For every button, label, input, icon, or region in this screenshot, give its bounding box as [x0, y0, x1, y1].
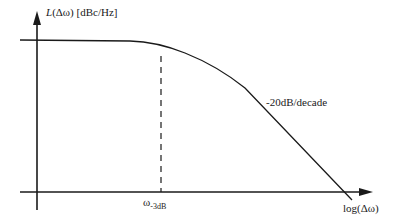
x-axis-arrow-icon: [359, 188, 373, 196]
y-axis-label: L(Δω) [dBc/Hz]: [46, 7, 117, 18]
corner-frequency-label: ω-3dB: [143, 197, 166, 211]
diagram-canvas: [0, 0, 397, 224]
y-axis-arrow-icon: [33, 11, 41, 25]
slope-annotation: -20dB/decade: [266, 97, 327, 108]
x-axis-label: log(Δω): [343, 203, 379, 214]
corner-frequency-subscript: -3dB: [150, 202, 166, 211]
phase-noise-curve: [20, 40, 352, 200]
y-axis-label-units: [dBc/Hz]: [77, 6, 118, 18]
y-axis-label-arg: (Δω): [52, 6, 74, 18]
